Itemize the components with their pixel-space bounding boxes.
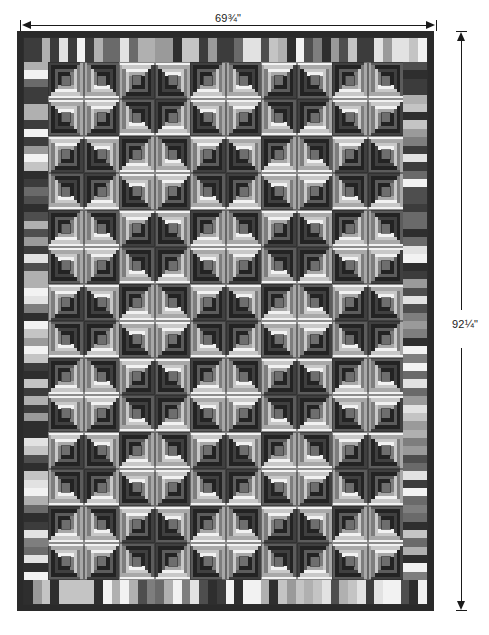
log-cabin-block bbox=[226, 284, 262, 321]
log-cabin-block bbox=[48, 358, 84, 395]
log-cabin-block bbox=[332, 432, 368, 469]
quilt-diagram-canvas: 69¾" 92¼" bbox=[0, 0, 489, 635]
log-cabin-block bbox=[368, 210, 404, 247]
piano-key-strip bbox=[392, 580, 401, 604]
log-cabin-block bbox=[155, 395, 191, 432]
piano-key-strip bbox=[42, 38, 51, 62]
log-cabin-block bbox=[48, 469, 84, 506]
piano-key-strip bbox=[24, 79, 48, 88]
piano-key-strip bbox=[403, 129, 427, 138]
piano-key-strip bbox=[418, 38, 427, 62]
piano-key-strip bbox=[403, 254, 427, 263]
piano-key-strip bbox=[173, 580, 182, 604]
piano-key-strip bbox=[403, 179, 427, 188]
piano-key-strip bbox=[278, 580, 287, 604]
log-cabin-block bbox=[368, 543, 404, 580]
piano-key-strip bbox=[24, 229, 48, 238]
log-cabin-block bbox=[226, 62, 262, 99]
piano-key-strip bbox=[403, 388, 427, 397]
piano-key-strip bbox=[357, 580, 366, 604]
log-cabin-block bbox=[190, 395, 226, 432]
piano-key-strip bbox=[269, 38, 278, 62]
piano-key-strip bbox=[403, 430, 427, 439]
piano-key-strip bbox=[403, 321, 427, 330]
piano-key-strip bbox=[403, 354, 427, 363]
log-cabin-block bbox=[119, 173, 155, 210]
log-cabin-block bbox=[119, 358, 155, 395]
log-cabin-block bbox=[332, 247, 368, 284]
piano-key-strip bbox=[24, 363, 48, 372]
log-cabin-block bbox=[190, 136, 226, 173]
piano-key-strip bbox=[24, 463, 48, 472]
log-cabin-block bbox=[190, 432, 226, 469]
log-cabin-block bbox=[84, 173, 120, 210]
piano-key-strip bbox=[33, 38, 42, 62]
piano-key-strip bbox=[252, 580, 261, 604]
piano-key-strip bbox=[182, 580, 191, 604]
log-cabin-block bbox=[297, 358, 333, 395]
log-cabin-block bbox=[332, 469, 368, 506]
log-cabin-block bbox=[261, 432, 297, 469]
log-cabin-block bbox=[155, 469, 191, 506]
piano-key-strip bbox=[287, 580, 296, 604]
dimension-right-bottom-arrowhead bbox=[457, 601, 465, 610]
piano-key-strip bbox=[403, 396, 427, 405]
log-cabin-block bbox=[155, 432, 191, 469]
piano-key-strip bbox=[147, 38, 156, 62]
piano-key-strip bbox=[403, 229, 427, 238]
log-cabin-block bbox=[332, 284, 368, 321]
log-cabin-block bbox=[226, 136, 262, 173]
log-cabin-field-wrapper bbox=[48, 62, 403, 580]
piano-key-strip bbox=[147, 580, 156, 604]
log-cabin-block bbox=[155, 247, 191, 284]
piano-key-strip bbox=[24, 338, 48, 347]
piano-key-strip bbox=[59, 38, 68, 62]
piano-key-strip bbox=[24, 354, 48, 363]
piano-key-strip bbox=[24, 254, 48, 263]
piano-key-strip bbox=[129, 580, 138, 604]
piano-key-strip bbox=[403, 196, 427, 205]
piano-key-strip bbox=[418, 580, 427, 604]
log-cabin-block bbox=[226, 506, 262, 543]
log-cabin-block bbox=[190, 358, 226, 395]
log-cabin-block bbox=[297, 284, 333, 321]
log-cabin-block bbox=[368, 247, 404, 284]
piano-key-strip bbox=[24, 413, 48, 422]
log-cabin-block bbox=[261, 358, 297, 395]
piano-key-strip bbox=[339, 38, 348, 62]
piano-key-strip bbox=[403, 304, 427, 313]
dimension-top-left-tick bbox=[20, 20, 21, 31]
piano-key-strip bbox=[403, 488, 427, 497]
piano-key-strip bbox=[42, 580, 51, 604]
log-cabin-block bbox=[155, 506, 191, 543]
log-cabin-block bbox=[261, 543, 297, 580]
piano-key-strip bbox=[24, 563, 48, 572]
piano-key-strip bbox=[261, 38, 270, 62]
piano-key-strip bbox=[24, 154, 48, 163]
log-cabin-block bbox=[297, 506, 333, 543]
piano-key-strip bbox=[403, 79, 427, 88]
piano-key-strip bbox=[24, 446, 48, 455]
piano-key-strip bbox=[403, 279, 427, 288]
dimension-top-left-arrowhead bbox=[22, 21, 31, 29]
log-cabin-block bbox=[368, 506, 404, 543]
piano-key-strip bbox=[322, 580, 331, 604]
piano-key-strip bbox=[374, 580, 383, 604]
piano-key-strip bbox=[24, 221, 48, 230]
piano-key-strip bbox=[403, 246, 427, 255]
log-cabin-block bbox=[190, 506, 226, 543]
piano-key-strip bbox=[24, 430, 48, 439]
piano-key-strip bbox=[409, 38, 418, 62]
piano-key-strip bbox=[403, 496, 427, 505]
log-cabin-block bbox=[261, 469, 297, 506]
log-cabin-block bbox=[261, 321, 297, 358]
piano-key-strip bbox=[24, 371, 48, 380]
log-cabin-block bbox=[155, 173, 191, 210]
log-cabin-block bbox=[332, 358, 368, 395]
piano-key-strip bbox=[403, 413, 427, 422]
log-cabin-block bbox=[155, 136, 191, 173]
piano-key-strip bbox=[77, 580, 86, 604]
log-cabin-block bbox=[261, 173, 297, 210]
piano-key-strip bbox=[403, 271, 427, 280]
piano-key-strip bbox=[103, 580, 112, 604]
